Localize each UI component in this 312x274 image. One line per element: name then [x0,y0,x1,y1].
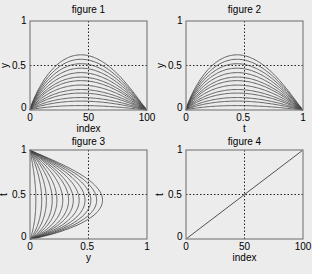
y-axis-label: y [155,63,166,68]
y-tick-label: 0.5 [168,60,182,71]
y-tick-label: 0 [21,102,27,113]
axes-3 [30,150,147,239]
y-tick-label: 1 [177,15,183,26]
x-axis-label: index [233,252,257,263]
x-axis-label: index [77,123,101,134]
x-tick-label: 100 [295,241,312,252]
x-tick-label: 50 [239,241,250,252]
plot-title: figure 3 [72,136,105,147]
axes-1 [30,21,147,110]
y-tick-label: 0.5 [12,189,26,200]
y-axis-label: t [154,193,165,196]
y-tick-label: 0 [21,231,27,242]
x-tick-label: 1 [300,112,306,123]
y-tick-label: 1 [177,144,183,155]
y-axis-label: y [0,63,10,68]
axes-4 [186,150,303,239]
plot-title: figure 4 [228,136,261,147]
x-tick-label: 0 [27,112,33,123]
y-tick-label: 1 [21,144,27,155]
y-axis-label: t [0,193,9,196]
plot-title: figure 2 [228,4,261,15]
x-tick-label: 0.5 [236,112,250,123]
y-tick-label: 0 [177,231,183,242]
x-tick-label: 0 [183,112,189,123]
y-tick-label: 1 [21,15,27,26]
y-tick-label: 0.5 [168,189,182,200]
plot-canvas [0,0,312,274]
x-tick-label: 0.5 [80,241,94,252]
axes-2 [186,21,303,110]
x-tick-label: 0 [183,241,189,252]
y-tick-label: 0.5 [12,60,26,71]
x-axis-label: t [243,123,246,134]
plot-title: figure 1 [72,4,105,15]
x-tick-label: 100 [139,112,156,123]
x-axis-label: y [86,252,91,263]
x-tick-label: 50 [83,112,94,123]
x-tick-label: 0 [27,241,33,252]
y-tick-label: 0 [177,102,183,113]
x-tick-label: 1 [144,241,150,252]
